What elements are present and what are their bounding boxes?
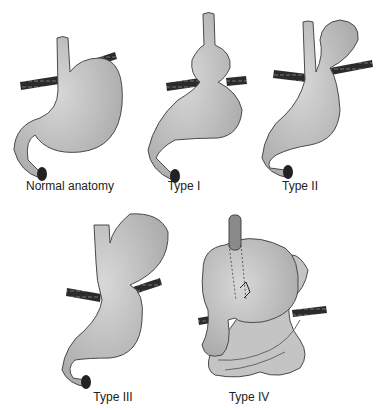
type-4-complex-hernia [198, 215, 327, 377]
label-type-1: Type I [168, 179, 201, 193]
diaphragm-left [20, 76, 59, 90]
label-type-3: Type III [93, 390, 132, 404]
type-2-paraesophageal-hernia [262, 20, 373, 179]
esophagus [229, 215, 241, 250]
label-normal-anatomy: Normal anatomy [26, 179, 114, 193]
type-1-sliding-hernia [148, 13, 247, 184]
normal-anatomy-stomach [14, 37, 122, 182]
type-3-mixed-hernia [62, 214, 168, 389]
hiatal-hernia-diagram [0, 0, 382, 410]
label-type-4: Type IV [229, 390, 270, 404]
label-type-2: Type II [282, 179, 318, 193]
